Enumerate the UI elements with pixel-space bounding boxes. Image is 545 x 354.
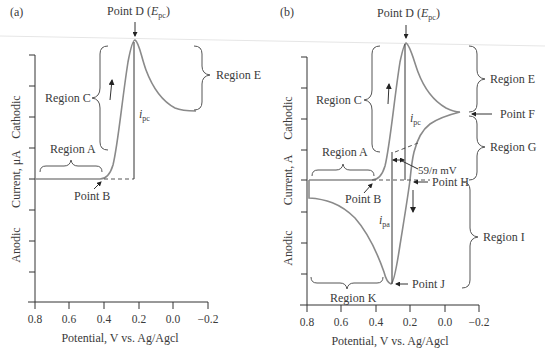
region-i-label: Region I [483,230,525,244]
region-e-brace [469,46,485,112]
x-tick-label: 0.4 [369,316,384,328]
panel-b-y-ticks [301,57,307,274]
x-tick-label: 0.8 [300,316,315,328]
panel-a-y-ticks [29,55,35,272]
region-c-label: Region C [316,93,362,107]
y-label-cathodic: Cathodic [9,95,23,138]
forward-scan-arrow-icon [388,84,389,104]
scan-direction-arrow-icon [110,80,112,100]
panel-b-x-axis-label: Potential, V vs. Ag/Agcl [331,334,449,348]
y-label-anodic: Anodic [9,227,23,262]
x-tick-label: 0.6 [334,316,349,328]
point-b-arrow-icon [94,182,101,189]
region-a-brace [312,164,374,176]
region-k-brace [311,277,383,289]
panel-a-point-d-label: Point D (Epc) [107,4,170,20]
region-g-brace [469,116,485,180]
panel-a-x-ticks [35,302,208,309]
x-tick-label: −0.2 [469,316,490,328]
point-j-label: Point J [412,277,445,291]
x-tick-label: 0.2 [403,316,418,328]
panel-b: (b) Point D (Epc) 0.8 0.6 0.4 0.2 0. [280,5,537,348]
region-e-brace [194,46,210,110]
region-a-brace [40,160,102,172]
x-tick-label: 0.0 [438,316,453,328]
panel-b-point-d-label: Point D (Epc) [377,6,440,22]
panel-b-label: (b) [280,5,294,19]
x-tick-label: 0.2 [132,313,147,325]
panel-a-voltammogram-curve [35,40,196,179]
point-b-label: Point B [345,192,381,206]
region-i-brace [462,182,478,288]
peak-separation-leader [402,161,418,169]
page-rule [0,36,545,46]
y-label-current: Current, μA [9,150,23,208]
y-label-anodic: Anodic [281,230,295,265]
y-label-cathodic: Cathodic [281,96,295,139]
region-k-label: Region K [330,291,377,305]
panel-a: (a) Point D (Epc) 0.8 0.6 0.4 [9,4,261,345]
region-c-brace [92,46,108,150]
region-a-label: Region A [50,142,96,156]
voltammogram-figure: (a) Point D (Epc) 0.8 0.6 0.4 [0,0,545,354]
region-a-label: Region A [322,145,368,159]
panel-a-label: (a) [10,5,23,19]
region-e-label: Region E [216,68,261,82]
point-b-label: Point B [74,189,110,203]
x-tick-label: 0.8 [28,313,43,325]
region-g-label: Region G [490,140,537,154]
ipc-label: ipc [139,107,150,123]
x-tick-label: 0.6 [62,313,77,325]
region-c-brace [364,46,380,152]
point-f-label: Point F [500,107,535,121]
panel-a-x-axis-label: Potential, V vs. Ag/Agcl [61,331,179,345]
x-tick-label: 0.4 [97,313,112,325]
x-tick-label: −0.2 [198,313,219,325]
panel-b-x-ticks [307,305,479,312]
y-label-current: Current, A [281,154,295,205]
x-tick-label: 0.0 [166,313,181,325]
ipa-label: ipa [379,213,390,229]
region-e-label: Region E [490,72,535,86]
ipc-label: ipc [410,111,421,127]
region-c-label: Region C [45,91,91,105]
